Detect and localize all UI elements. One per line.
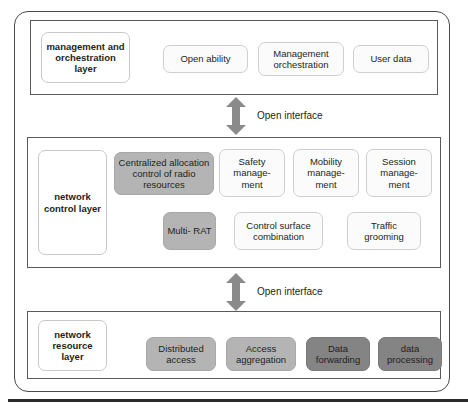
node-safety-management[interactable]: Safety manage- ment [219,149,285,197]
node-distributed-access[interactable]: Distributed access [146,337,216,371]
node-multi-rat[interactable]: Multi- RAT [163,212,216,250]
bottom-rule [8,399,468,402]
open-interface-arrow-upper [226,97,246,135]
layer-label-management-orchestration: management and orchestration layer [41,32,130,83]
open-interface-label-lower: Open interface [257,286,323,297]
arrow-shaft [232,106,240,126]
open-interface-arrow-lower [226,273,246,311]
node-centralized-allocation-control[interactable]: Centralized allocation control of radio … [114,152,214,195]
node-traffic-grooming[interactable]: Traffic grooming [347,212,421,250]
layer-label-network-resource: network resource layer [38,320,107,371]
node-management-orchestration[interactable]: Management orchestration [258,42,344,76]
node-data-forwarding[interactable]: Data forwarding [306,337,370,371]
node-session-management[interactable]: Session manage- ment [366,149,432,197]
arrow-head-down-icon [226,301,246,311]
arrow-head-down-icon [226,125,246,135]
open-interface-label-upper: Open interface [257,110,323,121]
node-data-processing[interactable]: data processing [378,337,442,371]
layer-label-network-control: network control layer [38,150,107,255]
arrow-shaft [232,282,240,302]
node-mobility-management[interactable]: Mobility manage- ment [293,149,359,197]
node-user-data[interactable]: User data [353,45,429,73]
node-open-ability[interactable]: Open ability [163,45,248,73]
node-access-aggregation[interactable]: Access aggregation [226,337,296,371]
node-control-surface-combination[interactable]: Control surface combination [234,212,323,250]
